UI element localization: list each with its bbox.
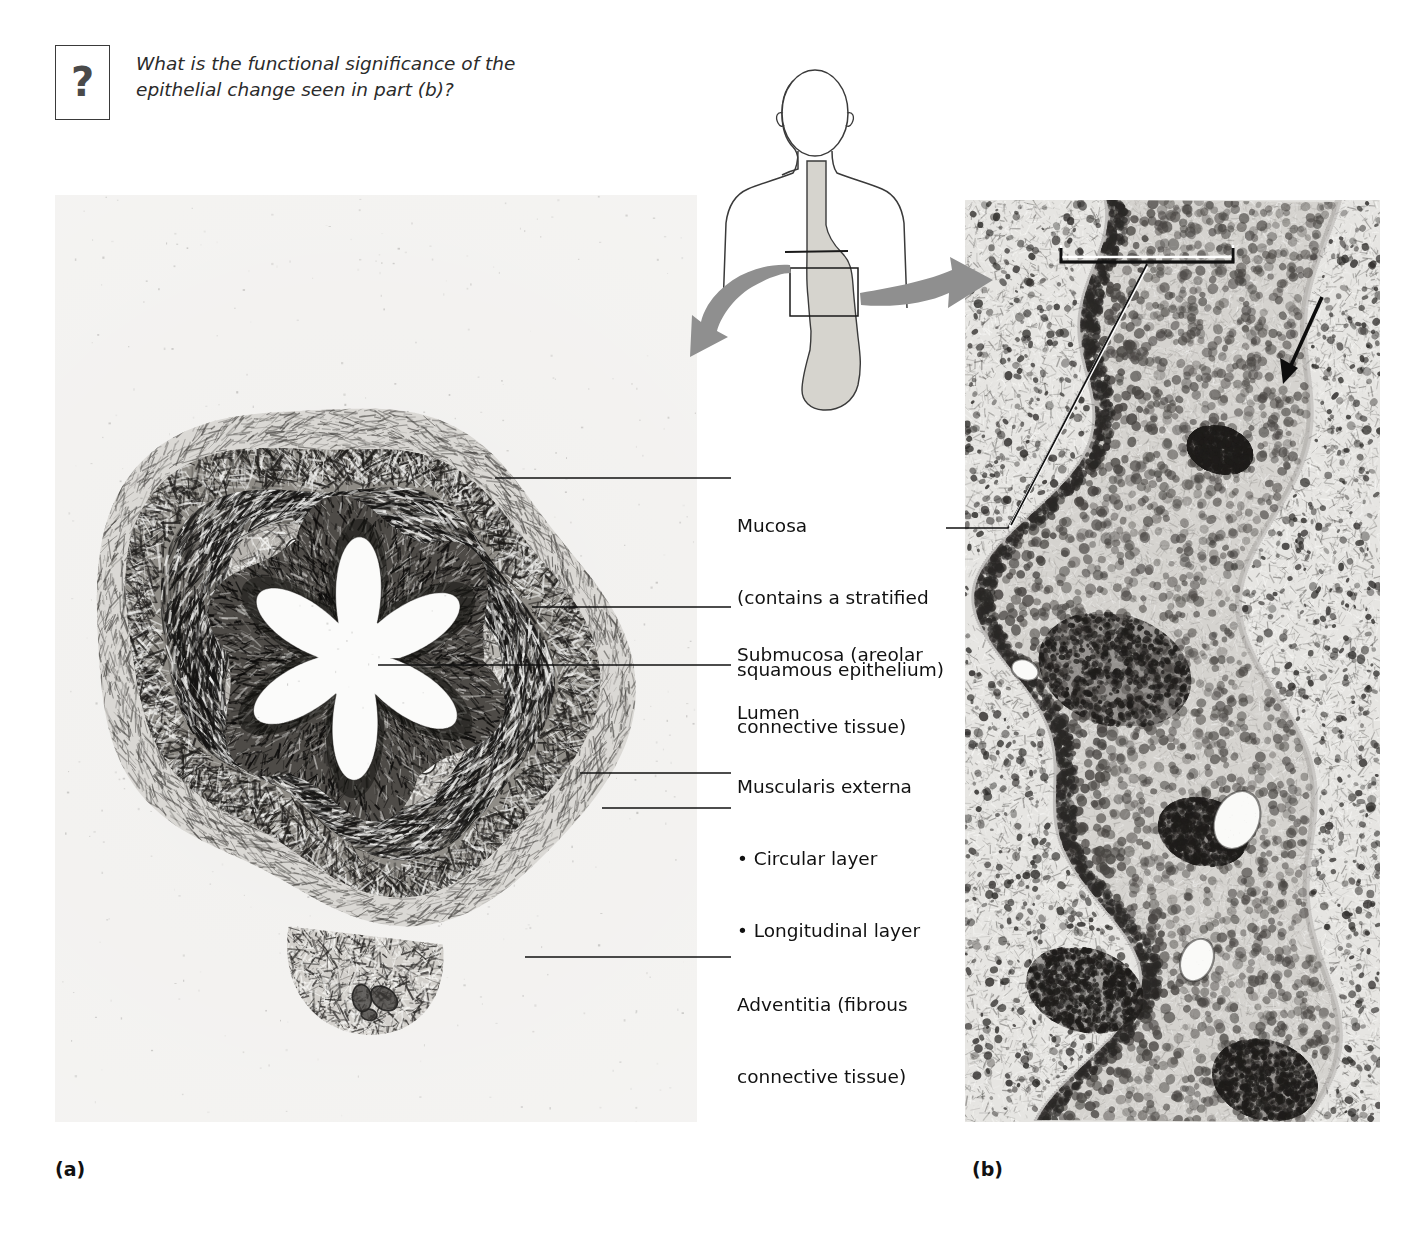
section-tick-line	[785, 251, 848, 252]
question-prompt: ? What is the functional significance of…	[55, 45, 606, 120]
figure-page: ? What is the functional significance of…	[0, 0, 1415, 1245]
label-adventitia: Adventitia (fibrous connective tissue)	[737, 945, 908, 1137]
label-adventitia-line2: connective tissue)	[737, 1065, 908, 1089]
label-circular-layer: • Circular layer	[737, 847, 920, 871]
label-mucosa-line1: Mucosa	[737, 514, 944, 538]
label-adventitia-line1: Adventitia (fibrous	[737, 993, 908, 1017]
esophagus-stomach-shape	[802, 161, 860, 410]
orientation-diagram	[690, 65, 1010, 420]
label-lumen-line1: Lumen	[737, 701, 800, 725]
label-longitudinal-layer: • Longitudinal layer	[737, 919, 920, 943]
question-text: What is the functional significance of t…	[136, 45, 606, 104]
head-shape	[782, 70, 848, 156]
micrograph-panel-a	[55, 195, 697, 1122]
question-mark-icon: ?	[71, 62, 94, 102]
panel-b-caption: (b)	[972, 1158, 1003, 1180]
micrograph-panel-b	[965, 200, 1380, 1122]
panel-a-caption: (a)	[55, 1158, 85, 1180]
arrow-to-panel-a	[690, 265, 791, 357]
question-mark-box: ?	[55, 45, 110, 120]
label-muscularis-title: Muscularis externa	[737, 775, 920, 799]
arrow-to-panel-b	[860, 257, 993, 308]
